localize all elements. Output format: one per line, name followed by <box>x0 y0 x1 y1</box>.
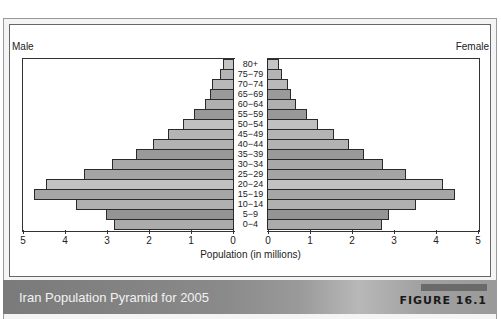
x-tick <box>23 230 24 234</box>
x-tick-label: 1 <box>185 235 197 246</box>
caption-bar: Iran Population Pyramid for 2005 FIGURE … <box>3 280 497 314</box>
x-tick-label: 5 <box>472 235 484 246</box>
female-bar <box>267 219 382 230</box>
female-legend-label: Female <box>456 41 489 52</box>
age-group-label: 5−9 <box>234 209 267 219</box>
male-bar <box>114 219 234 230</box>
age-group-label: 20−24 <box>234 179 267 189</box>
x-tick-label: 3 <box>388 235 400 246</box>
age-group-label: 45−49 <box>234 129 267 139</box>
x-tick <box>268 230 269 234</box>
x-tick <box>149 230 150 234</box>
age-group-label: 50−54 <box>234 119 267 129</box>
figure-stripe <box>421 284 487 291</box>
x-tick-label: 3 <box>101 235 113 246</box>
age-group-label: 10−14 <box>234 199 267 209</box>
age-group-label: 0−4 <box>234 219 267 229</box>
x-tick <box>233 230 234 234</box>
age-group-label: 25−29 <box>234 169 267 179</box>
x-tick-label: 4 <box>59 235 71 246</box>
x-tick <box>352 230 353 234</box>
x-axis-label: Population (in millions) <box>0 249 501 260</box>
age-group-label: 65−69 <box>234 89 267 99</box>
age-group-label: 75−79 <box>234 69 267 79</box>
x-tick <box>436 230 437 234</box>
x-tick <box>107 230 108 234</box>
male-legend-label: Male <box>12 41 34 52</box>
x-tick-label: 2 <box>346 235 358 246</box>
x-tick <box>191 230 192 234</box>
age-group-label: 35−39 <box>234 149 267 159</box>
figure-number: FIGURE 16.1 <box>399 294 487 307</box>
figure-caption: Iran Population Pyramid for 2005 <box>19 290 209 305</box>
x-tick-label: 0 <box>227 235 239 246</box>
x-tick-label: 5 <box>17 235 29 246</box>
x-tick-label: 1 <box>304 235 316 246</box>
x-tick-label: 4 <box>430 235 442 246</box>
age-group-label: 70−74 <box>234 79 267 89</box>
x-tick <box>65 230 66 234</box>
age-group-label: 30−34 <box>234 159 267 169</box>
age-group-label: 55−59 <box>234 109 267 119</box>
x-tick-label: 0 <box>262 235 274 246</box>
x-tick-label: 2 <box>143 235 155 246</box>
age-group-label: 80+ <box>234 59 267 69</box>
x-tick <box>478 230 479 234</box>
age-group-label: 40−44 <box>234 139 267 149</box>
age-group-label: 15−19 <box>234 189 267 199</box>
age-group-label: 60−64 <box>234 99 267 109</box>
x-tick <box>394 230 395 234</box>
x-tick <box>310 230 311 234</box>
